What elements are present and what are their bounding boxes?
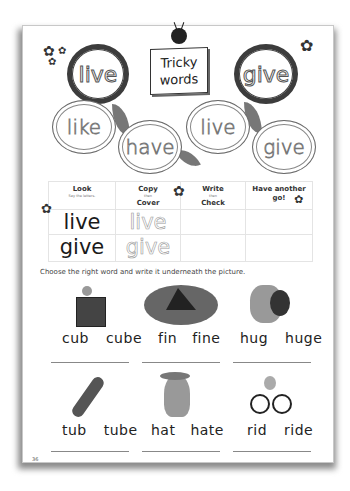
word-option[interactable]: fine bbox=[192, 330, 220, 346]
word-choice-pair: hat hate bbox=[151, 422, 224, 438]
cloud-word: have bbox=[125, 135, 174, 159]
word-option[interactable]: hat bbox=[151, 422, 175, 438]
answer-line[interactable] bbox=[233, 451, 311, 452]
title-line-1: Tricky bbox=[151, 53, 207, 72]
mouse-picture bbox=[82, 286, 92, 296]
cloud-word-like: like bbox=[52, 100, 116, 154]
copy-cell: live bbox=[116, 210, 181, 235]
header-main: Write bbox=[181, 185, 245, 194]
bicycle-wheel bbox=[250, 394, 270, 414]
word-option[interactable]: tube bbox=[104, 422, 138, 438]
write-cell[interactable] bbox=[181, 210, 246, 235]
word-option[interactable]: hug bbox=[240, 330, 268, 346]
cube-picture bbox=[76, 297, 106, 327]
cloud-word-live: live bbox=[186, 100, 250, 154]
cloud-word: live bbox=[79, 62, 118, 87]
bicycle-wheel bbox=[272, 394, 292, 414]
header-copy-cover: Copy then Cover bbox=[116, 182, 181, 210]
answer-line[interactable] bbox=[142, 362, 220, 363]
flower-icon: ✿ bbox=[41, 203, 52, 215]
title-line-2: words bbox=[151, 70, 207, 89]
word-option[interactable]: tub bbox=[62, 422, 87, 438]
cloud-word: give bbox=[243, 62, 290, 87]
answer-line[interactable] bbox=[51, 362, 129, 363]
mouse-on-bicycle-picture bbox=[264, 376, 276, 390]
look-word: give bbox=[60, 235, 105, 259]
dog-with-hat-picture bbox=[164, 375, 190, 417]
cloud-word: like bbox=[67, 115, 101, 139]
fin-shape bbox=[166, 288, 196, 310]
exercise-instruction: Choose the right word and write it under… bbox=[40, 268, 245, 276]
another-go-cell[interactable] bbox=[246, 210, 313, 235]
word-option[interactable]: ride bbox=[284, 422, 313, 438]
cloud-word-give: give bbox=[234, 44, 298, 104]
header-write-check: Write then Check bbox=[181, 182, 246, 210]
word-choice-pair: rid ride bbox=[247, 422, 313, 438]
table-row: live live bbox=[49, 210, 313, 235]
cloud-word-have: have bbox=[118, 120, 182, 174]
flower-icon: ✿ bbox=[294, 194, 303, 206]
word-choice-pair: tub tube bbox=[62, 422, 138, 438]
another-go-cell[interactable] bbox=[246, 235, 313, 262]
look-cell: live bbox=[49, 210, 116, 235]
look-word: live bbox=[63, 210, 100, 234]
word-choice-pair: cub cube bbox=[62, 330, 142, 346]
write-cell[interactable] bbox=[181, 235, 246, 262]
flower-icon: ✿ bbox=[58, 45, 66, 57]
cloud-word-give: give bbox=[252, 120, 316, 174]
word-option[interactable]: cube bbox=[106, 330, 142, 346]
table-row: give give bbox=[49, 235, 313, 262]
word-choice-pair: fin fine bbox=[158, 330, 220, 346]
flower-icon: ✿ bbox=[173, 185, 185, 197]
header-main-2: Cover bbox=[116, 199, 180, 208]
header-main-2: Check bbox=[181, 199, 245, 208]
answer-line[interactable] bbox=[233, 362, 311, 363]
tracing-word: give bbox=[126, 235, 171, 259]
word-option[interactable]: cub bbox=[62, 330, 89, 346]
bee-picture bbox=[270, 290, 290, 316]
tracing-word: live bbox=[129, 210, 166, 234]
copy-cell: give bbox=[116, 235, 181, 262]
look-cell: give bbox=[49, 235, 116, 262]
word-option[interactable]: fin bbox=[158, 330, 177, 346]
hat-shape bbox=[160, 372, 190, 380]
word-option[interactable]: rid bbox=[247, 422, 267, 438]
ant-mascot-icon bbox=[171, 28, 187, 44]
answer-line[interactable] bbox=[142, 451, 220, 452]
flower-icon: ✿ bbox=[300, 40, 313, 52]
cloud-word: live bbox=[200, 115, 235, 139]
word-choice-pair: hug huge bbox=[240, 330, 322, 346]
header-main: Copy bbox=[116, 185, 180, 194]
header-sub: Say the letters. bbox=[49, 194, 115, 199]
answer-line[interactable] bbox=[51, 451, 129, 452]
header-look: Look Say the letters. bbox=[49, 182, 116, 210]
cloud-word: give bbox=[263, 135, 305, 159]
cloud-word-live: live bbox=[67, 44, 129, 104]
header-main: Look bbox=[49, 185, 115, 194]
flower-icon: ✿ bbox=[48, 56, 56, 68]
page-number: 36 bbox=[32, 456, 38, 462]
tricky-words-sign: Tricky words bbox=[150, 47, 208, 95]
word-option[interactable]: hate bbox=[190, 422, 224, 438]
word-option[interactable]: huge bbox=[285, 330, 322, 346]
